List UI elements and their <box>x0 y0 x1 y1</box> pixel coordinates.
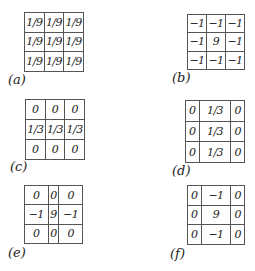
kernel-grid-e: 000 −19−1 000 <box>24 185 83 244</box>
kernel-grid-d: 01/30 01/30 01/30 <box>185 100 245 163</box>
kernel-cell: 0 <box>231 225 245 245</box>
kernel-cell: −1 <box>25 205 49 224</box>
kernel-cell: 0 <box>48 186 59 205</box>
kernel-cell: 0 <box>25 224 49 243</box>
kernel-cell: 1/9 <box>25 52 45 72</box>
kernel-cell: 9 <box>48 205 59 224</box>
kernel-cell: −1 <box>188 51 207 69</box>
panel-label-d: (d) <box>172 163 190 178</box>
kernel-cell: 0 <box>231 101 245 122</box>
panel-label-c: (c) <box>10 159 27 174</box>
kernel-grid-b: −1−1−1 −19−1 −1−1−1 <box>187 14 245 70</box>
kernel-cell: 1/9 <box>64 52 84 72</box>
kernel-cell: 0 <box>45 100 65 120</box>
kernel-cell: 1/3 <box>26 120 46 140</box>
kernel-cell: −1 <box>207 51 226 69</box>
panel-label-a: (a) <box>8 72 26 87</box>
kernel-cell: 1/3 <box>45 120 65 140</box>
kernel-cell: −1 <box>201 186 231 206</box>
kernel-cell: 1/3 <box>199 142 231 163</box>
panel-label-e: (e) <box>8 245 26 260</box>
kernel-cell: 0 <box>48 224 59 243</box>
kernel-grid-a: 1/91/91/9 1/91/91/9 1/91/91/9 <box>24 12 84 72</box>
kernel-cell: 0 <box>186 142 200 163</box>
kernel-cell: 0 <box>186 101 200 122</box>
kernel-cell: 0 <box>231 205 245 225</box>
kernel-cell: 0 <box>25 186 49 205</box>
kernel-cell: 1/9 <box>64 32 84 52</box>
kernel-cell: −1 <box>226 51 245 69</box>
kernel-cell: 1/9 <box>44 13 64 33</box>
kernel-cell: 0 <box>186 121 200 142</box>
kernel-cell: 0 <box>26 100 46 120</box>
kernel-cell: 1/9 <box>44 52 64 72</box>
kernel-cell: 0 <box>65 140 85 160</box>
kernel-cell: 0 <box>26 140 46 160</box>
kernel-cell: 1/3 <box>199 121 231 142</box>
kernel-cell: 0 <box>188 225 202 245</box>
kernel-cell: 1/3 <box>199 101 231 122</box>
kernel-cell: −1 <box>207 15 226 33</box>
kernel-cell: 1/3 <box>65 120 85 140</box>
panel-label-f: (f) <box>170 246 185 261</box>
kernel-cell: 0 <box>59 224 83 243</box>
kernel-cell: 1/9 <box>25 13 45 33</box>
kernel-cell: 0 <box>231 121 245 142</box>
kernel-cell: 0 <box>188 186 202 206</box>
kernel-cell: 0 <box>45 140 65 160</box>
kernel-cell: −1 <box>226 33 245 51</box>
kernel-grid-c: 000 1/31/31/3 000 <box>25 99 85 160</box>
kernel-cell: 9 <box>201 205 231 225</box>
kernel-cell: 9 <box>207 33 226 51</box>
kernel-cell: −1 <box>59 205 83 224</box>
kernel-cell: 0 <box>231 186 245 206</box>
kernel-cell: −1 <box>188 15 207 33</box>
kernel-cell: 1/9 <box>44 32 64 52</box>
kernel-cell: −1 <box>201 225 231 245</box>
kernel-cell: 1/9 <box>64 13 84 33</box>
kernel-cell: 1/9 <box>25 32 45 52</box>
kernel-cell: −1 <box>188 33 207 51</box>
panel-label-b: (b) <box>172 70 190 85</box>
kernel-cell: 0 <box>65 100 85 120</box>
kernel-cell: 0 <box>59 186 83 205</box>
kernel-grid-f: 0−10 090 0−10 <box>187 185 245 245</box>
kernel-cell: 0 <box>231 142 245 163</box>
kernel-cell: −1 <box>226 15 245 33</box>
kernel-cell: 0 <box>188 205 202 225</box>
